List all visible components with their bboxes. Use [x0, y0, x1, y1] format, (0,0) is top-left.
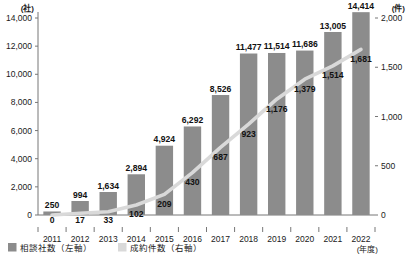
legend-swatch-1 [118, 243, 127, 252]
bar-value-label-2015: 4,924 [154, 134, 176, 144]
line-value-label-2012: 17 [75, 215, 85, 225]
bar-value-label-2012: 994 [73, 190, 88, 200]
bar-2022 [352, 12, 369, 215]
line-value-label-2015: 209 [157, 199, 172, 209]
right-axis-tick-label: 1,500 [381, 62, 403, 72]
line-value-label-2019: 1,176 [266, 104, 288, 114]
line-value-label-2021: 1,514 [322, 70, 344, 80]
bar-value-label-2021: 13,005 [320, 21, 347, 31]
left-axis-tick-label: 4,000 [11, 154, 33, 164]
bar-2021 [324, 32, 341, 215]
left-axis-tick-label: 6,000 [11, 126, 33, 136]
x-axis-unit-label: (年度) [357, 244, 379, 254]
line-value-label-2011: 0 [50, 215, 55, 225]
line-value-label-2017: 687 [213, 152, 228, 162]
x-axis-category-label-2019: 2019 [267, 234, 286, 244]
left-axis-tick-label: 14,000 [6, 13, 32, 23]
left-axis-tick-label: 12,000 [6, 41, 32, 51]
x-axis-category-label-2022: 2022 [351, 234, 370, 244]
bar-value-label-2014: 2,894 [126, 163, 148, 173]
right-axis-tick-label: 0 [381, 210, 386, 220]
line-value-label-2014: 102 [129, 209, 144, 219]
bar-value-label-2013: 1,634 [97, 181, 119, 191]
right-axis-tick-label: 2,000 [381, 13, 403, 23]
bar-value-label-2016: 6,292 [182, 115, 204, 125]
x-axis-category-label-2020: 2020 [295, 234, 314, 244]
left-axis-tick-label: 2,000 [11, 182, 33, 192]
bar-2019 [268, 53, 285, 215]
legend-label-0: 相談社数（左軸） [20, 243, 92, 253]
bar-value-label-2017: 8,526 [210, 84, 232, 94]
right-axis-tick-label: 1,000 [381, 112, 403, 122]
bar-value-label-2022: 14,414 [348, 1, 375, 11]
line-value-label-2016: 430 [185, 177, 200, 187]
left-axis-tick-label: 8,000 [11, 97, 33, 107]
line-value-label-2018: 923 [241, 129, 256, 139]
legend-label-1: 成約件数（右軸） [130, 243, 202, 253]
bar-value-label-2020: 11,686 [292, 39, 318, 49]
line-value-label-2022: 1,681 [350, 54, 372, 64]
bar-value-label-2011: 250 [45, 200, 60, 210]
left-axis-tick-label: 0 [27, 210, 32, 220]
line-value-label-2013: 33 [103, 215, 113, 225]
x-axis-category-label-2017: 2017 [211, 234, 230, 244]
right-axis-unit-label: (件) [392, 3, 406, 13]
chart-container: (社)(件)02,0004,0006,0008,00010,00012,0001… [0, 0, 413, 260]
x-axis-category-label-2013: 2013 [99, 234, 118, 244]
right-axis-tick-label: 500 [381, 161, 395, 171]
left-axis-tick-label: 10,000 [6, 69, 32, 79]
x-axis-category-label-2021: 2021 [323, 234, 342, 244]
line-value-label-2020: 1,379 [294, 84, 316, 94]
bar-value-label-2019: 11,514 [264, 41, 290, 51]
left-axis-unit-label: (社) [21, 3, 35, 13]
legend-swatch-0 [8, 243, 17, 252]
bar-value-label-2018: 11,477 [236, 42, 262, 52]
x-axis-category-label-2018: 2018 [239, 234, 258, 244]
